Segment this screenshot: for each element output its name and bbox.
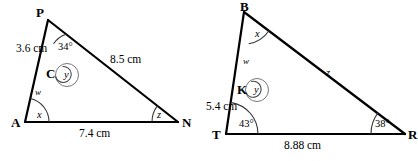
left-angle-label-n: z (157, 110, 161, 121)
right-angle-label-k: y (254, 85, 259, 96)
right-side-label-br: z (326, 68, 330, 79)
right-side-label-kt: 5.4 cm (206, 101, 237, 113)
right-angle-label-b: x (255, 29, 260, 40)
left-vertex-label-n: N (182, 116, 191, 129)
right-vertex-label-k: K (237, 83, 247, 96)
right-side-bt (226, 12, 244, 134)
left-angle-label-a: x (37, 110, 42, 121)
right-vertex-label-t: T (212, 128, 221, 141)
right-vertex-label-r: R (408, 128, 417, 141)
right-side-label-tr: 8.88 cm (284, 140, 321, 152)
left-side-label-pn: 8.5 cm (110, 54, 141, 66)
left-vertex-label-a: A (11, 116, 20, 129)
geometry-figure-canvas: P A N C 3.6 cm 8.5 cm 7.4 cm w 34° y x z… (0, 0, 418, 161)
left-side-label-ca: w (35, 88, 41, 97)
left-vertex-label-c: C (46, 67, 55, 80)
right-vertex-label-b: B (240, 0, 249, 13)
left-angle-label-c: y (64, 70, 69, 81)
left-side-pa (25, 20, 48, 122)
left-vertex-label-p: P (36, 6, 44, 19)
left-side-label-pc: 3.6 cm (16, 43, 47, 55)
right-angle-label-t: 43° (239, 119, 254, 130)
right-angle-label-r: 38° (375, 119, 390, 130)
right-side-br (244, 12, 405, 134)
geometry-figure-svg (0, 0, 418, 161)
right-side-label-bk: w (243, 57, 249, 66)
left-angle-label-p: 34° (58, 42, 73, 53)
left-side-label-an: 7.4 cm (79, 128, 110, 140)
